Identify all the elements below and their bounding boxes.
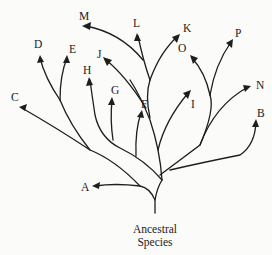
branch-lmk [148, 80, 151, 118]
label-b: B [257, 107, 265, 119]
branch-de [60, 100, 90, 150]
label-k: K [183, 22, 192, 34]
arrowhead-e [63, 55, 70, 63]
branch-g [111, 100, 113, 140]
branch-b [170, 122, 256, 170]
label-e: E [69, 43, 76, 55]
label-i: I [191, 98, 195, 110]
branch-l [138, 36, 150, 80]
branch-f [136, 113, 141, 156]
label-m: M [79, 10, 89, 22]
branch-m [85, 26, 143, 60]
arrowhead-f [137, 110, 144, 118]
label-a: A [81, 181, 90, 193]
branch-k [150, 36, 178, 80]
arrowhead-b [252, 119, 259, 127]
root-label-line1: Ancestral [133, 223, 177, 235]
arrowhead-o [190, 55, 198, 64]
root-label-line2: Species [137, 236, 173, 249]
arrowhead-p [226, 39, 233, 48]
label-j: J [97, 48, 102, 60]
arrowhead-d [37, 55, 44, 63]
arrowhead-m [82, 22, 91, 30]
label-g: G [111, 84, 119, 96]
label-o: O [178, 42, 186, 54]
label-h: H [83, 64, 91, 76]
label-p: P [235, 27, 241, 39]
branch-p [210, 42, 231, 95]
trunk [155, 180, 162, 213]
branch-e [60, 58, 67, 100]
label-d: D [34, 38, 42, 50]
branch-d [40, 58, 60, 100]
branch-o [192, 58, 210, 95]
label-l: L [133, 17, 140, 29]
arrowhead-n [243, 85, 251, 92]
branch-left-major [22, 108, 140, 186]
label-c: C [11, 91, 19, 103]
arrowhead-a [92, 182, 100, 189]
label-f: F [141, 98, 147, 110]
arrowhead-l [134, 33, 141, 41]
branch-hgf [90, 80, 162, 180]
branch-n [200, 87, 248, 145]
arrowhead-h [86, 77, 93, 86]
phylogenetic-tree-diagram: M L K P D E O J H G F I N B C A Ancestra… [0, 0, 272, 255]
arrowhead-g [108, 97, 115, 105]
branch-i [158, 92, 189, 150]
label-n: N [256, 79, 265, 91]
branch-a [95, 185, 155, 201]
